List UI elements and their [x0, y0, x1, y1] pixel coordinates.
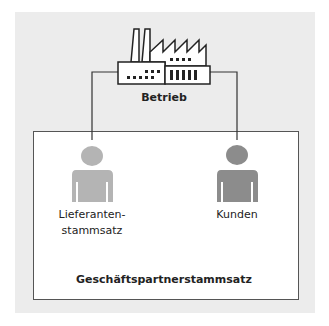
container-label: Geschäftspartnerstammsatz — [64, 272, 264, 288]
supplier-label-line2: stammsatz — [42, 223, 142, 239]
factory-icon — [118, 29, 210, 84]
supplier-label-line1: Lieferanten- — [42, 207, 142, 223]
supplier-person-icon — [72, 146, 113, 202]
customer-person-icon — [217, 145, 258, 202]
connector-to-supplier — [92, 72, 118, 140]
factory-label: Betrieb — [124, 90, 204, 106]
connector-to-customer — [210, 72, 237, 140]
supplier-label: Lieferanten- stammsatz — [42, 207, 142, 239]
customer-label: Kunden — [187, 207, 287, 223]
